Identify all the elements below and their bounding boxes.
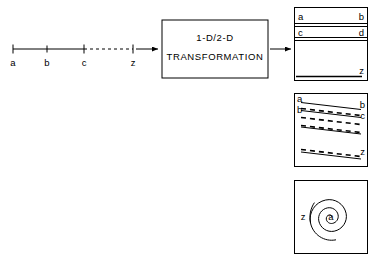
diagonal-label-a: a <box>297 93 303 104</box>
figure-root: a b c z 1-D/2-D TRANSFORMATION a b <box>0 0 377 266</box>
spiral-label-a: a <box>328 211 334 222</box>
transformation-box-line2: TRANSFORMATION <box>167 51 264 62</box>
axis-label-a: a <box>10 57 16 68</box>
diagonal-panel: a b b c z <box>295 93 368 167</box>
diagonal-label-z: z <box>360 146 365 157</box>
raster-panel-frame <box>295 8 368 81</box>
axis-label-z: z <box>131 57 136 68</box>
transformation-box: 1-D/2-D TRANSFORMATION <box>162 20 268 78</box>
spiral-label-z: z <box>301 211 306 222</box>
transformation-box-rect <box>162 20 268 78</box>
diagonal-label-b-left: b <box>297 104 302 115</box>
raster-label-b: b <box>359 11 364 22</box>
transformation-box-line1: 1-D/2-D <box>196 32 233 43</box>
raster-label-c: c <box>298 27 303 38</box>
axis-label-c: c <box>82 57 87 68</box>
spiral-panel: a z <box>295 181 368 254</box>
input-axis-group: a b c z <box>10 45 135 69</box>
transformation-diagram: a b c z 1-D/2-D TRANSFORMATION a b <box>0 0 377 266</box>
diagonal-label-c: c <box>360 110 365 121</box>
axis-label-b: b <box>44 57 49 68</box>
diagonal-label-b-right: b <box>360 99 365 110</box>
raster-label-a: a <box>298 11 304 22</box>
raster-panel: a b c d z <box>295 8 368 81</box>
raster-label-d: d <box>359 27 364 38</box>
raster-label-z: z <box>359 65 364 76</box>
